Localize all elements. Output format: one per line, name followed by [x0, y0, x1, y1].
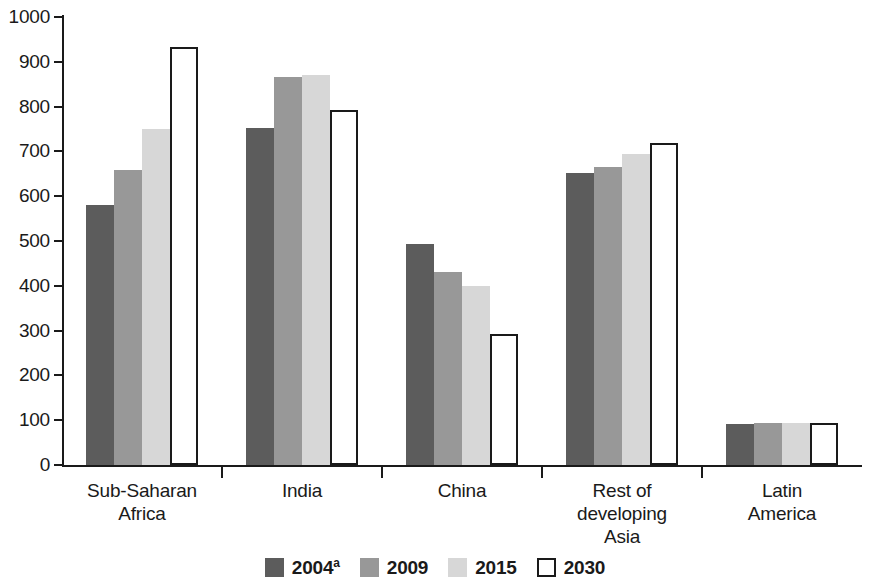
x-axis-separator-tick: [221, 467, 223, 478]
legend-item[interactable]: 2015: [448, 558, 516, 577]
bar-group-bars: [222, 17, 382, 465]
bar: [330, 110, 358, 465]
category-label-line: China: [382, 479, 542, 502]
x-axis-separator-tick: [541, 467, 543, 478]
y-axis-tick-label: 1000: [4, 7, 50, 26]
legend-swatch-icon: [537, 558, 556, 577]
bar-chart: 01002003004005006007008009001000 Sub-Sah…: [0, 0, 870, 588]
bar-group: [382, 17, 542, 465]
bar: [650, 143, 678, 465]
bar-group-bars: [702, 17, 862, 465]
bar: [782, 423, 810, 465]
x-axis-separator-tick: [701, 467, 703, 478]
category-label: India: [222, 479, 382, 502]
x-axis-separator-tick: [381, 467, 383, 478]
bar: [406, 244, 434, 465]
bar: [142, 129, 170, 465]
bar-group: [62, 17, 222, 465]
y-axis-tick-label: 600: [4, 186, 50, 205]
bar: [274, 77, 302, 465]
category-labels: Sub-SaharanAfricaIndiaChinaRest ofdevelo…: [62, 479, 862, 549]
bar-group: [542, 17, 702, 465]
bar: [490, 334, 518, 465]
category-label-line: Africa: [62, 502, 222, 525]
legend-swatch-icon: [265, 558, 284, 577]
bar: [754, 423, 782, 465]
bar-group-bars: [382, 17, 542, 465]
y-axis-tick-label: 900: [4, 52, 50, 71]
legend-item[interactable]: 2030: [537, 558, 605, 577]
bar: [246, 128, 274, 465]
legend-label: 2015: [475, 558, 516, 577]
category-label: LatinAmerica: [702, 479, 862, 525]
legend-swatch-icon: [448, 558, 467, 577]
bar: [302, 75, 330, 465]
category-label-line: Rest of: [542, 479, 702, 502]
bar-group-bars: [542, 17, 702, 465]
bar: [114, 170, 142, 465]
legend-item[interactable]: 2009: [360, 558, 428, 577]
y-axis-tick-label: 400: [4, 276, 50, 295]
category-label: Rest ofdevelopingAsia: [542, 479, 702, 548]
y-axis-tick-label: 700: [4, 141, 50, 160]
category-label: China: [382, 479, 542, 502]
chart-legend: 2004a200920152030: [0, 558, 870, 577]
legend-label: 2030: [564, 558, 605, 577]
bar: [566, 173, 594, 465]
legend-label-superscript: a: [333, 556, 339, 570]
y-axis-tick-label: 100: [4, 410, 50, 429]
bar: [170, 47, 198, 465]
bar: [86, 205, 114, 465]
bar: [462, 286, 490, 465]
legend-swatch-icon: [360, 558, 379, 577]
category-label: Sub-SaharanAfrica: [62, 479, 222, 525]
y-axis-tick-label: 0: [4, 455, 50, 474]
category-label-line: America: [702, 502, 862, 525]
bar-group-bars: [62, 17, 222, 465]
category-label-line: India: [222, 479, 382, 502]
bar-group: [702, 17, 862, 465]
bar: [594, 167, 622, 465]
category-label-line: Asia: [542, 525, 702, 548]
category-label-line: Latin: [702, 479, 862, 502]
category-label-line: Sub-Saharan: [62, 479, 222, 502]
bar: [622, 154, 650, 465]
bar: [810, 423, 838, 465]
y-axis-tick-label: 200: [4, 365, 50, 384]
category-label-line: developing: [542, 502, 702, 525]
bar-groups: [62, 17, 862, 465]
y-axis-tick-label: 800: [4, 97, 50, 116]
bar: [726, 424, 754, 465]
legend-item[interactable]: 2004a: [265, 558, 340, 577]
bar: [434, 272, 462, 465]
legend-label: 2009: [387, 558, 428, 577]
y-axis-tick-label: 500: [4, 231, 50, 250]
y-axis-tick-label: 300: [4, 321, 50, 340]
legend-label: 2004a: [292, 558, 340, 577]
bar-group: [222, 17, 382, 465]
x-axis-line: [62, 465, 862, 467]
